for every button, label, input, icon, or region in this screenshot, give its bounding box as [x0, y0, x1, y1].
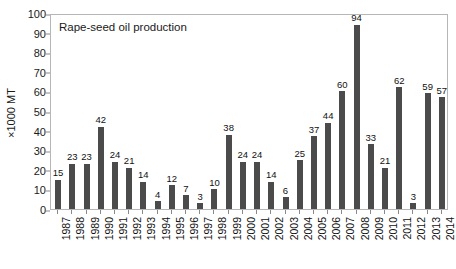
bar: [311, 136, 317, 209]
x-tick-mark-1997: [199, 210, 200, 214]
x-tick-mark-1989: [86, 210, 87, 214]
y-tick-label-0: 0: [40, 205, 46, 216]
bar: [169, 185, 175, 209]
x-tick-label-1996: 1996: [189, 217, 200, 240]
bar-group: 57: [435, 15, 449, 209]
bar-value-label: 3: [411, 192, 416, 202]
bar: [297, 160, 303, 209]
y-tick-label-20: 20: [34, 165, 46, 176]
y-tick-label-40: 40: [34, 126, 46, 137]
bar-value-label: 7: [183, 184, 188, 194]
x-tick-mark-1991: [114, 210, 115, 214]
bar-value-label: 38: [223, 123, 234, 133]
x-tick-mark-2001: [256, 210, 257, 214]
x-tick-mark-2000: [242, 210, 243, 214]
bar-group: 15: [51, 15, 65, 209]
x-tick-mark-1996: [185, 210, 186, 214]
x-tick-mark-2008: [356, 210, 357, 214]
bar-value-label: 33: [366, 133, 377, 143]
bar: [69, 164, 75, 209]
bar: [197, 203, 203, 209]
bar: [155, 201, 161, 209]
bar-group: 4: [151, 15, 165, 209]
bar-group: 12: [165, 15, 179, 209]
y-tick-label-50: 50: [34, 107, 46, 118]
bar: [382, 168, 388, 209]
bar-value-label: 14: [266, 170, 277, 180]
x-tick-mark-2003: [285, 210, 286, 214]
bar: [211, 189, 217, 209]
x-tick-mark-2007: [341, 210, 342, 214]
x-tick-label-2005: 2005: [317, 217, 328, 240]
x-tick-label-1994: 1994: [161, 217, 172, 240]
bar: [425, 93, 431, 209]
x-tick-mark-2006: [327, 210, 328, 214]
x-tick-mark-1992: [128, 210, 129, 214]
x-tick-mark-2010: [384, 210, 385, 214]
y-tick-label-30: 30: [34, 146, 46, 157]
x-tick-label-1987: 1987: [61, 217, 72, 240]
bar-group: 24: [236, 15, 250, 209]
x-tick-label-2003: 2003: [289, 217, 300, 240]
bar: [112, 162, 118, 209]
bar-group: 37: [307, 15, 321, 209]
bar: [254, 162, 260, 209]
bar: [325, 123, 331, 209]
bar-group: 6: [278, 15, 292, 209]
bar: [283, 197, 289, 209]
bar-value-label: 23: [81, 152, 92, 162]
bar-value-label: 24: [252, 150, 263, 160]
x-tick-label-2009: 2009: [374, 217, 385, 240]
bar-group: 33: [364, 15, 378, 209]
bar-value-label: 94: [351, 13, 362, 23]
x-tick-label-1998: 1998: [217, 217, 228, 240]
x-tick-label-1989: 1989: [90, 217, 101, 240]
bar-group: 24: [108, 15, 122, 209]
bar-group: 59: [421, 15, 435, 209]
bar-group: 10: [207, 15, 221, 209]
bar-value-label: 24: [110, 150, 121, 160]
bar-value-label: 3: [198, 192, 203, 202]
bar-group: 44: [321, 15, 335, 209]
bar: [396, 87, 402, 209]
bar-group: 60: [335, 15, 349, 209]
x-tick-label-1988: 1988: [75, 217, 86, 240]
y-tick-label-80: 80: [34, 48, 46, 59]
x-tick-mark-1994: [157, 210, 158, 214]
bar: [268, 182, 274, 209]
x-tick-label-2002: 2002: [274, 217, 285, 240]
bar-value-label: 62: [394, 76, 405, 86]
x-tick-mark-2004: [299, 210, 300, 214]
bar: [126, 168, 132, 209]
bar-value-label: 12: [167, 174, 178, 184]
bar-group: 14: [264, 15, 278, 209]
plot-area: Rape-seed oil production 152323422421144…: [50, 14, 448, 210]
y-tick-label-60: 60: [34, 87, 46, 98]
x-tick-mark-2002: [270, 210, 271, 214]
bar: [339, 91, 345, 209]
x-tick-label-1991: 1991: [118, 217, 129, 240]
x-tick-mark-1990: [100, 210, 101, 214]
bar-value-label: 10: [209, 178, 220, 188]
bar: [439, 97, 445, 209]
bar-value-label: 21: [124, 156, 135, 166]
x-tick-mark-1999: [228, 210, 229, 214]
x-tick-mark-2014: [441, 210, 442, 214]
bar: [140, 182, 146, 209]
bar: [55, 180, 61, 209]
bar-group: 14: [136, 15, 150, 209]
bar-value-label: 42: [95, 115, 106, 125]
x-tick-label-2006: 2006: [331, 217, 342, 240]
bar-value-label: 44: [323, 111, 334, 121]
bar-value-label: 23: [67, 152, 78, 162]
bar: [410, 203, 416, 209]
bar-group: 7: [179, 15, 193, 209]
bar-value-label: 14: [138, 170, 149, 180]
bar-group: 24: [250, 15, 264, 209]
x-tick-label-2010: 2010: [388, 217, 399, 240]
x-tick-mark-2013: [427, 210, 428, 214]
bar-value-label: 25: [294, 149, 305, 159]
bar-group: 3: [193, 15, 207, 209]
x-tick-label-2011: 2011: [402, 217, 413, 240]
y-tick-label-90: 90: [34, 28, 46, 39]
